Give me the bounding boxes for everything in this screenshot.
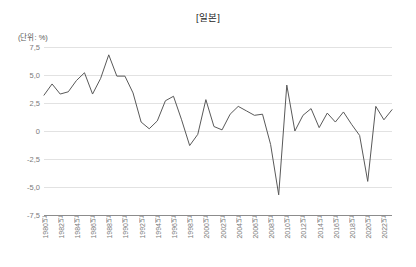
- series-polyline: [44, 55, 392, 195]
- x-tick-label: 1986년: [89, 216, 99, 239]
- x-tick-label: 1988년: [105, 216, 115, 239]
- x-tick-label: 2000년: [202, 216, 212, 239]
- x-tick-label: 2006년: [251, 216, 261, 239]
- x-tick-label: 2012년: [299, 216, 309, 239]
- x-tick-label: 1998년: [186, 216, 196, 239]
- plot-area: [44, 47, 392, 215]
- x-tick-label: 2014년: [316, 216, 326, 239]
- x-tick-label: 2008년: [267, 216, 277, 239]
- line-series-gdp-growth: [44, 47, 392, 215]
- x-tick-label: 2022년: [380, 216, 390, 239]
- y-tick-label: 0: [4, 127, 40, 136]
- y-tick-label: -2,5: [4, 155, 40, 164]
- y-tick-label: 2,5: [4, 99, 40, 108]
- x-tick-label: 1992년: [138, 216, 148, 239]
- x-tick-label: 2016년: [332, 216, 342, 239]
- x-tick-label: 1990년: [121, 216, 131, 239]
- x-tick-label: 1984년: [73, 216, 83, 239]
- x-tick-label: 2018년: [348, 216, 358, 239]
- x-tick-label: 2020년: [364, 216, 374, 239]
- x-tick-label: 2010년: [283, 216, 293, 239]
- y-tick-label: 5,0: [4, 71, 40, 80]
- x-tick-label: 1994년: [154, 216, 164, 239]
- unit-label: (단위: %): [18, 31, 48, 42]
- x-tick-label: 1980년: [41, 216, 51, 239]
- x-tick-label: 2002년: [219, 216, 229, 239]
- chart-container: [일본] (단위: %) 7,55,02,50-2,5-5,0-7,5 1980…: [0, 0, 416, 267]
- y-axis-ticks: 7,55,02,50-2,5-5,0-7,5: [0, 47, 40, 215]
- y-tick-label: 7,5: [4, 43, 40, 52]
- y-tick-label: -5,0: [4, 183, 40, 192]
- x-axis-labels: 1980년1982년1984년1986년1988년1990년1992년1994년…: [44, 216, 392, 264]
- x-tick-label: 1996년: [170, 216, 180, 239]
- x-tick-label: 2004년: [235, 216, 245, 239]
- y-tick-label: -7,5: [4, 211, 40, 220]
- chart-title: [일본]: [0, 10, 416, 24]
- x-tick-label: 1982년: [57, 216, 67, 239]
